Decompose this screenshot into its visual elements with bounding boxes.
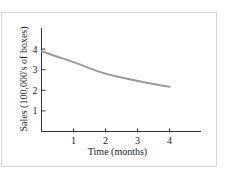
y-tick-label: 4 — [33, 44, 38, 55]
x-tick-label: 2 — [103, 135, 108, 146]
y-tick-label: 2 — [33, 85, 38, 96]
y-tick-label: 1 — [33, 105, 38, 116]
axes — [42, 28, 202, 132]
series-line-sales — [42, 51, 170, 87]
chart: 12341234 Time (months) Sales (100,000's … — [0, 0, 225, 171]
y-tick-label: 3 — [33, 64, 38, 75]
x-tick-label: 3 — [135, 135, 140, 146]
ticks: 12341234 — [33, 44, 173, 146]
y-axis-label: Sales (100,000's of boxes) — [18, 26, 30, 131]
series — [42, 51, 170, 87]
x-tick-label: 1 — [71, 135, 76, 146]
x-axis-label: Time (months) — [88, 146, 147, 158]
x-tick-label: 4 — [167, 135, 172, 146]
